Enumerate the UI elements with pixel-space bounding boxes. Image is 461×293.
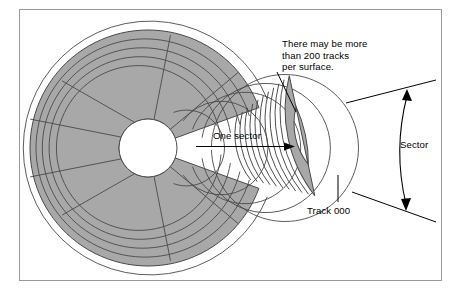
disk-sector-figure: There may be more than 200 tracks per su… <box>0 0 461 293</box>
sector-dimension <box>346 80 436 222</box>
track-000-label: Track 000 <box>307 205 350 217</box>
tracks-note-label: There may be more than 200 tracks per su… <box>282 38 367 73</box>
disk-hub-hole <box>119 119 177 177</box>
disk-diagram-art <box>0 0 461 293</box>
one-sector-label: One sector <box>213 130 261 142</box>
sector-label: Sector <box>400 139 428 151</box>
